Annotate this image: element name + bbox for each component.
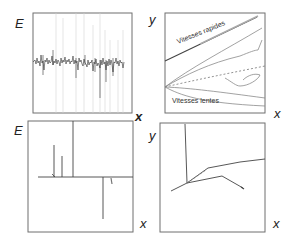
panel-bottom-left: E x	[14, 121, 147, 232]
panel-frame	[28, 121, 133, 232]
upper-curve-2	[165, 40, 262, 87]
panel-top-right: y Vitesses rapides Vitesses lentes x	[148, 12, 281, 121]
panel-bottom-right: y x	[148, 123, 280, 232]
label-fast-velocities: Vitesses rapides	[176, 19, 227, 46]
y-axis-label-y: y	[148, 12, 157, 27]
x-axis-label-x: x	[273, 106, 281, 121]
branch-trajectory	[187, 176, 243, 188]
y-axis-label-e: E	[14, 123, 23, 138]
vertical-trajectory	[185, 124, 187, 183]
main-trajectory	[171, 159, 265, 191]
y-axis-label-e: E	[15, 16, 24, 31]
loop-curve	[225, 74, 260, 86]
y-axis-label-y: y	[148, 128, 157, 143]
small-mark	[111, 178, 112, 184]
label-slow-velocities: Vitesses lentes	[172, 97, 219, 104]
signal-spikes	[43, 50, 113, 98]
x-axis-label-x: x	[272, 216, 280, 231]
x-axis-label-x: x	[139, 216, 147, 231]
x-axis-label-x: x	[134, 109, 143, 124]
panel-top-left: E x	[15, 13, 143, 124]
figure-canvas: E x y	[0, 0, 295, 242]
noisy-signal	[33, 55, 124, 72]
branch-end-mark	[241, 187, 244, 189]
